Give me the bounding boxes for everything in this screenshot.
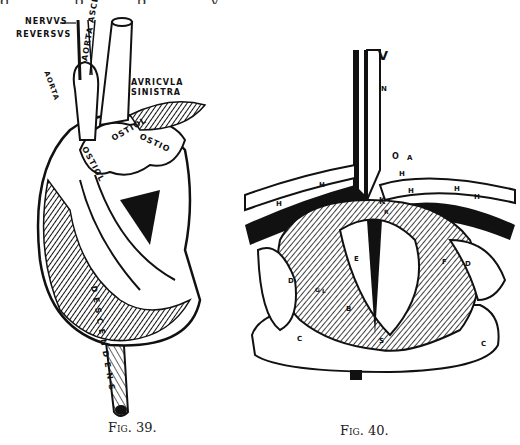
label-H6: H — [474, 193, 481, 201]
label-H5: H — [454, 185, 461, 193]
figure-39-caption: Fig. 39. — [108, 420, 157, 435]
label-H1: H — [319, 181, 326, 189]
label-D-left: D — [288, 277, 295, 285]
label-C-right: C — [481, 340, 487, 348]
label-G: G — [315, 286, 321, 293]
label-F: F — [442, 258, 448, 266]
heart-woodcut-illustration — [0, 0, 240, 445]
label-H4: H — [408, 187, 415, 195]
label-A: A — [407, 154, 413, 162]
label-D-right: D — [465, 260, 472, 268]
figure-40-caption: Fig. 40. — [340, 423, 389, 438]
label-B: B — [346, 305, 352, 313]
label-S: S — [379, 337, 385, 345]
label-V: V — [378, 48, 389, 63]
label-sinistra: SINISTRA — [131, 88, 181, 97]
label-K: K — [379, 197, 386, 206]
label-nervus: NERVVS — [25, 17, 67, 26]
label-R: R — [384, 208, 390, 215]
label-N: N — [381, 85, 388, 93]
label-E: E — [354, 255, 360, 263]
label-O: O — [392, 152, 400, 161]
label-C-left: C — [297, 335, 303, 343]
figure-39: NERVVS REVERSVS AORTA ASCEDES AVRICVLA S… — [0, 0, 240, 445]
figure-40: V N O A H H H H H H K R E F D D G L B C … — [240, 0, 520, 445]
thorax-heart-woodcut-illustration — [240, 0, 520, 445]
label-reversus: REVERSVS — [16, 30, 71, 39]
label-auricula: AVRICVLA — [131, 78, 183, 87]
label-L: L — [322, 287, 327, 294]
label-H2: H — [276, 200, 283, 208]
label-H3: H — [399, 170, 406, 178]
